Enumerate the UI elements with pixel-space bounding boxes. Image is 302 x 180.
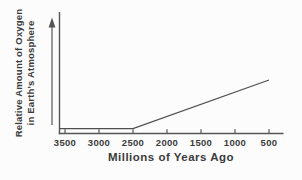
x-tick-label: 500 [261,137,278,148]
oxygen-atmosphere-chart: Relative Amount of Oxygen in Earth's Atm… [0,0,302,180]
x-tick-label: 3000 [88,137,110,148]
x-tick-labels-group: 350030002500200015001000500 [54,137,278,148]
data-line [60,80,270,129]
x-tick-label: 1500 [190,137,212,148]
x-tick-label: 1000 [224,137,246,148]
x-tick-label: 3500 [54,137,76,148]
x-tick-label: 2000 [156,137,178,148]
x-tick-label: 2500 [122,137,144,148]
y-axis-arrow-icon [49,18,56,126]
x-axis-title: Millions of Years Ago [59,151,283,163]
